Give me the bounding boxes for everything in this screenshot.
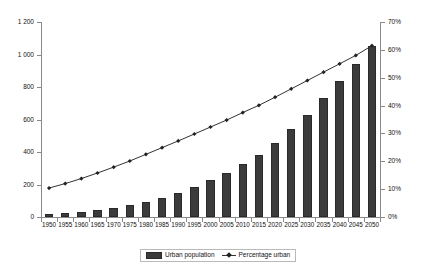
legend-label-urban-population: Urban population <box>165 252 215 259</box>
line-marker <box>354 53 358 57</box>
y-tick-label-left: 1 000 <box>18 52 34 59</box>
y-tick-right <box>381 106 385 107</box>
y-tick-label-left: 0 <box>30 214 34 221</box>
y-tick-label-right: 40% <box>388 103 401 110</box>
line-marker <box>257 103 261 107</box>
line-marker <box>144 152 148 156</box>
y-tick-label-left: 400 <box>23 149 34 156</box>
line-marker <box>176 139 180 143</box>
chart-container: 02004006008001 0001 200 0%10%20%30%40%50… <box>0 0 428 272</box>
legend-label-percentage-urban: Percentage urban <box>239 252 291 259</box>
line-marker <box>273 95 277 99</box>
y-tick-label-left: 800 <box>23 84 34 91</box>
y-tick-label-right: 70% <box>388 19 401 26</box>
line-marker <box>128 159 132 163</box>
chart-legend: Urban population Percentage urban <box>140 249 296 262</box>
y-tick-right <box>381 22 385 23</box>
line-marker <box>225 118 229 122</box>
line-marker <box>321 70 325 74</box>
line-marker <box>289 87 293 91</box>
x-axis-line <box>41 217 381 218</box>
y-tick-right <box>381 217 385 218</box>
line-marker <box>160 146 164 150</box>
y-tick-label-left: 200 <box>23 182 34 189</box>
line-marker <box>63 181 67 185</box>
line-marker-icon <box>222 253 236 258</box>
y-tick-label-right: 30% <box>388 130 401 137</box>
legend-item-percentage-urban: Percentage urban <box>222 252 291 259</box>
y-tick-label-right: 50% <box>388 75 401 82</box>
y-tick-right <box>381 78 385 79</box>
y-tick-label-left: 1 200 <box>18 19 34 26</box>
line-marker <box>47 186 51 190</box>
line-marker <box>112 165 116 169</box>
y-tick-right <box>381 133 385 134</box>
y-tick-label-left: 600 <box>23 117 34 124</box>
legend-item-urban-population: Urban population <box>146 252 215 259</box>
y-tick-right <box>381 161 385 162</box>
line-marker <box>79 176 83 180</box>
y-tick-right <box>381 189 385 190</box>
y-tick-label-right: 0% <box>388 214 397 221</box>
line-marker <box>305 78 309 82</box>
line-marker <box>95 171 99 175</box>
y-tick-label-right: 10% <box>388 186 401 193</box>
line-marker <box>241 110 245 114</box>
line-marker <box>192 132 196 136</box>
y-tick-right <box>381 50 385 51</box>
x-tick-label: 2050 <box>360 222 384 228</box>
y-tick-label-right: 60% <box>388 47 401 54</box>
bar-swatch-icon <box>146 252 162 259</box>
y-tick-label-right: 20% <box>388 158 401 165</box>
line-marker <box>338 62 342 66</box>
line-series-percentage-urban <box>41 22 380 217</box>
line-marker <box>208 125 212 129</box>
line-path <box>49 46 372 188</box>
